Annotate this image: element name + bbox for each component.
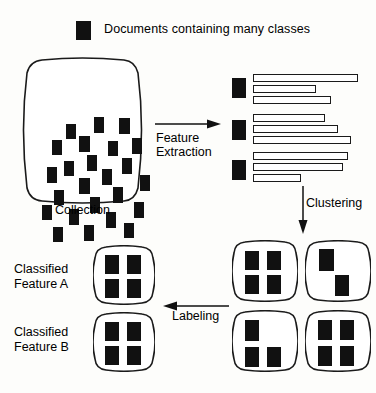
clustering-arrow-icon (297, 186, 309, 234)
classified-feature-a-box (93, 245, 155, 305)
classified-feature-b-label: Classified Feature B (14, 325, 69, 355)
feature-extraction-label-line2: Extraction (156, 145, 212, 159)
classified-feature-b-box-shape (93, 312, 155, 372)
collection-document (53, 227, 63, 242)
clustering-label: Clustering (306, 196, 362, 210)
feature-extraction-label: Feature Extraction (156, 131, 212, 159)
collection-document (134, 202, 144, 218)
cluster-bottom-left (232, 310, 298, 372)
collection-document (140, 175, 150, 191)
feature-bar (253, 96, 331, 104)
feature-bar (253, 152, 348, 160)
classified-document (105, 346, 119, 365)
cluster-document (245, 251, 259, 270)
collection-document (64, 161, 74, 176)
classified-feature-b-label-line2: Feature B (14, 340, 69, 355)
collection-document (84, 225, 94, 241)
classified-document (105, 322, 119, 341)
cluster-bottom-right-shape (305, 310, 371, 372)
collection-document (132, 138, 142, 154)
feature-group-document (232, 160, 246, 180)
collection-document (79, 136, 90, 152)
classified-document (127, 255, 141, 274)
classified-feature-a-label-line2: Feature A (14, 277, 68, 292)
legend-label: Documents containing many classes (104, 22, 310, 36)
collection-document (108, 141, 118, 156)
cluster-document (267, 347, 281, 367)
legend-document-swatch-icon (76, 21, 91, 40)
feature-bar (253, 114, 325, 122)
feature-bar (253, 125, 338, 133)
cluster-document (267, 251, 281, 270)
cluster-top-right (305, 240, 371, 302)
cluster-document (318, 320, 332, 340)
cluster-top-left (232, 240, 298, 302)
cluster-document (267, 275, 281, 294)
cluster-document (245, 347, 259, 367)
collection-document (122, 158, 132, 174)
feature-bar (253, 136, 351, 144)
cluster-document (245, 320, 259, 341)
cluster-top-left-shape (232, 240, 298, 302)
collection-document (42, 205, 52, 220)
classified-document (105, 255, 119, 274)
cluster-document (340, 346, 354, 366)
classified-feature-a-box-shape (93, 245, 155, 305)
classified-feature-b-label-line1: Classified (14, 325, 69, 340)
collection-document (124, 223, 134, 238)
classified-feature-b-box (93, 312, 155, 372)
cluster-document (319, 249, 334, 271)
cluster-document (340, 320, 354, 340)
cluster-document (245, 275, 259, 294)
cluster-bottom-right (305, 310, 371, 372)
classified-document (127, 279, 141, 298)
feature-bar (253, 174, 301, 182)
collection-document (119, 118, 130, 134)
diagram-canvas: Documents containing many classes Collec… (0, 0, 376, 393)
labeling-label: Labeling (172, 309, 219, 323)
classified-feature-a-label: Classified Feature A (14, 262, 68, 292)
cluster-document (318, 346, 332, 366)
feature-group-document (232, 120, 246, 140)
collection-caption: Collection (55, 203, 110, 217)
collection-document (66, 124, 76, 139)
classified-feature-a-label-line1: Classified (14, 262, 68, 277)
classified-document (127, 322, 141, 341)
collection-document (94, 117, 104, 133)
feature-bar (253, 85, 316, 93)
feature-extraction-arrow-icon (155, 118, 221, 130)
collection-document (87, 155, 97, 171)
feature-bar (253, 74, 358, 82)
cluster-bottom-left-shape (232, 310, 298, 372)
collection-document (113, 187, 123, 203)
feature-group-document (232, 78, 246, 98)
classified-document (127, 346, 141, 365)
cluster-document (335, 275, 349, 296)
collection-document (47, 167, 57, 183)
classified-document (105, 279, 119, 298)
collection-document (52, 140, 62, 155)
collection-document (79, 178, 90, 194)
feature-bar (253, 163, 343, 171)
feature-extraction-label-line1: Feature (156, 131, 212, 145)
collection-document (102, 169, 112, 185)
